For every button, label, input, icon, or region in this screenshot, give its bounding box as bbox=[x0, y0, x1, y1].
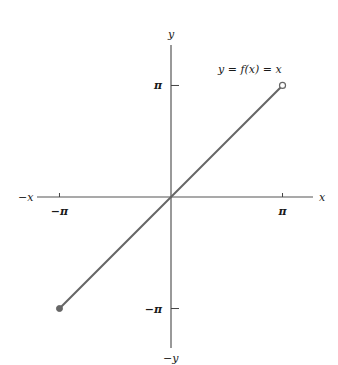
start-point-filled bbox=[56, 306, 62, 312]
y-axis-label-positive: y bbox=[167, 28, 175, 41]
function-label: y = f(x) = x bbox=[217, 63, 282, 76]
end-point-open bbox=[280, 82, 286, 88]
y-tick-label: π bbox=[153, 79, 163, 92]
x-tick-label: −π bbox=[51, 205, 69, 218]
x-axis-label-positive: x bbox=[319, 191, 326, 204]
x-tick-label: π bbox=[277, 205, 287, 218]
x-axis-label-negative: −x bbox=[18, 191, 34, 204]
y-axis-label-negative: −y bbox=[163, 352, 179, 365]
chart: x −x y −y −ππ π−π y = f(x) = x bbox=[0, 0, 338, 365]
y-tick-label: −π bbox=[145, 303, 163, 316]
